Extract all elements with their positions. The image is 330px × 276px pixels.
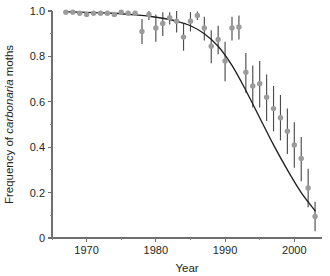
data-point	[195, 13, 200, 18]
data-point	[250, 83, 255, 88]
data-point	[98, 11, 103, 16]
data-point	[91, 11, 96, 16]
data-point	[181, 34, 186, 39]
axis-labels: 00.20.40.60.81.01970198019902000YearFreq…	[3, 5, 307, 274]
data-point	[105, 11, 110, 16]
data-point	[271, 106, 276, 111]
y-tick-label: 0.6	[30, 96, 45, 108]
data-point	[188, 19, 193, 24]
data-point	[292, 142, 297, 147]
data-point	[312, 214, 317, 219]
data-point	[153, 25, 158, 30]
data-point	[84, 12, 89, 17]
y-tick-label: 0.2	[30, 187, 45, 199]
axis-spines	[52, 11, 322, 238]
data-point	[222, 58, 227, 63]
data-point	[243, 70, 248, 75]
data-point	[125, 11, 130, 16]
fit-curve	[66, 12, 315, 211]
data-point	[229, 25, 234, 30]
data-point	[285, 129, 290, 134]
data-point	[132, 11, 137, 16]
data-point	[305, 185, 310, 190]
figure-container: 00.20.40.60.81.01970198019902000YearFreq…	[0, 0, 330, 276]
data-point	[167, 15, 172, 20]
data-point	[278, 115, 283, 120]
data-point	[215, 37, 220, 42]
fit-line	[66, 12, 315, 211]
data-point	[146, 12, 151, 17]
data-points	[63, 9, 318, 219]
y-tick-label: 0	[39, 232, 45, 244]
data-point	[160, 21, 165, 26]
x-tick-label: 1970	[74, 244, 98, 256]
scatter-plot: 00.20.40.60.81.01970198019902000YearFreq…	[0, 0, 330, 276]
data-point	[77, 11, 82, 16]
data-point	[299, 156, 304, 161]
data-point	[264, 95, 269, 100]
x-tick-label: 1980	[144, 244, 168, 256]
x-tick-label: 1990	[213, 244, 237, 256]
data-point	[209, 43, 214, 48]
data-point	[119, 9, 124, 14]
data-point	[139, 29, 144, 34]
y-axis-title: Frequency of carbonaria moths	[3, 45, 15, 204]
x-axis-title: Year	[175, 262, 198, 274]
error-bars	[142, 11, 315, 231]
data-point	[174, 19, 179, 24]
y-tick-label: 0.8	[30, 50, 45, 62]
data-point	[257, 81, 262, 86]
data-point	[63, 9, 68, 14]
y-tick-label: 0.4	[30, 141, 45, 153]
data-point	[112, 12, 117, 17]
data-point	[202, 25, 207, 30]
x-tick-label: 2000	[282, 244, 306, 256]
data-point	[70, 9, 75, 14]
y-tick-label: 1.0	[30, 5, 45, 17]
data-point	[236, 24, 241, 29]
